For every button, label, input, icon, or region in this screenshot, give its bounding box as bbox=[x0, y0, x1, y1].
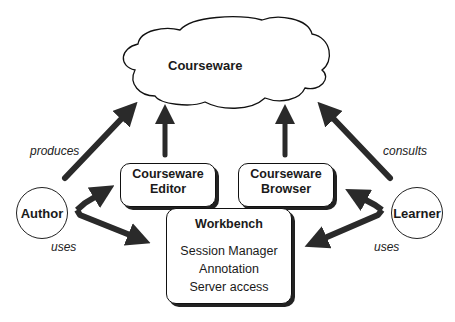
learner-uses-workbench-arrow bbox=[320, 210, 382, 240]
consults-label: consults bbox=[383, 144, 427, 158]
editor-line1: Courseware bbox=[121, 167, 215, 182]
workbench-item: Session Manager bbox=[167, 242, 291, 260]
author-uses-workbench-arrow bbox=[77, 210, 135, 237]
workbench-item: Annotation bbox=[167, 260, 291, 278]
workbench-title: Workbench bbox=[167, 217, 291, 231]
author-label: Author bbox=[21, 206, 64, 221]
learner-uses-label: uses bbox=[374, 240, 399, 254]
learner-label: Learner bbox=[393, 206, 441, 221]
author-uses-editor-arrow bbox=[77, 194, 100, 210]
browser-line1: Courseware bbox=[239, 167, 333, 182]
browser-line2: Browser bbox=[239, 182, 333, 197]
courseware-browser-box: Courseware Browser bbox=[238, 163, 334, 207]
courseware-editor-box: Courseware Editor bbox=[120, 163, 216, 207]
consults-arrow bbox=[329, 114, 390, 178]
produces-label: produces bbox=[30, 144, 79, 158]
workbench-item: Server access bbox=[167, 278, 291, 296]
editor-line2: Editor bbox=[121, 182, 215, 197]
author-actor: Author bbox=[16, 187, 68, 239]
learner-uses-browser-arrow bbox=[360, 197, 382, 210]
workbench-box: Workbench Session Manager Annotation Ser… bbox=[166, 208, 292, 304]
learner-actor: Learner bbox=[391, 187, 443, 239]
author-uses-label: uses bbox=[51, 240, 76, 254]
cloud-label: Courseware bbox=[168, 58, 242, 73]
